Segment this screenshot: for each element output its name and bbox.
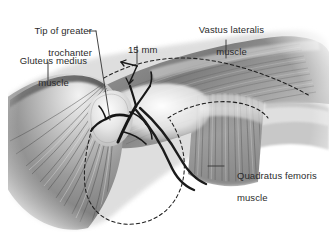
label-line-1: Tip of greater [34,25,92,36]
measurement-value: 15 mm [128,44,158,55]
label-quadratus-femoris-muscle: Quadratus femoris muscle [226,159,329,214]
anatomy-figure: Tip of greater trochanter Gluteus medius… [0,0,329,241]
label-gluteus-medius-muscle: Gluteus medius muscle [3,44,93,99]
label-line-2: muscle [216,46,247,57]
label-line-1: Gluteus medius [20,55,87,66]
label-line-2: muscle [38,77,69,88]
label-line-2: muscle [237,192,268,203]
label-line-1: Quadratus femoris [237,170,317,181]
leader-tip-of-greater-trochanter [96,31,110,120]
label-vastus-lateralis-muscle: Vastus lateralis muscle [182,13,270,68]
label-fifteen-mm: 15 mm [117,33,157,66]
label-line-1: Vastus lateralis [199,24,264,35]
